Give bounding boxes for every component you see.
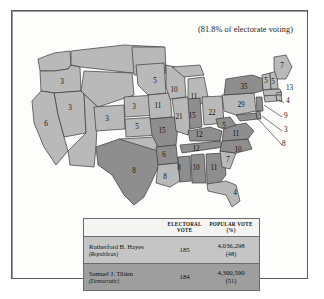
state-votes-VA: 11: [233, 130, 240, 138]
state-votes-WI: 10: [170, 86, 178, 94]
state-votes-IN: 15: [188, 112, 196, 120]
electoral-vote-hayes: 185: [166, 237, 203, 264]
state-votes-RI: 4: [286, 97, 290, 105]
state-votes-CO: 3: [105, 115, 109, 123]
results-table: ELECTORAL VOTE POPULAR VOTE (%) Rutherfo…: [83, 218, 260, 291]
popular-vote-pct: (48): [203, 250, 259, 258]
popular-vote-pct: (51): [203, 277, 259, 285]
state-votes-GA: 11: [211, 164, 218, 172]
callout-vote-labels: 13 4 9 3 8: [282, 84, 294, 148]
state-votes-NJ: 9: [284, 112, 288, 120]
table-row: Rutherford B. Hayes (Republican) 185 4,0…: [84, 237, 259, 264]
state-votes-OH: 22: [208, 109, 216, 117]
state-votes-NV: 3: [68, 104, 72, 112]
header-candidate: [84, 219, 166, 237]
state-votes-NY: 35: [240, 83, 248, 91]
state-votes-WV: 5: [222, 122, 226, 130]
popular-vote-count: 4,036,298: [217, 242, 244, 249]
state-votes-ME: 7: [280, 62, 284, 70]
state-votes-AL: 10: [192, 164, 200, 172]
state-votes-MA: 13: [286, 84, 294, 92]
state-votes-NC: 10: [234, 146, 242, 154]
state-votes-LA: 8: [163, 173, 167, 181]
state-votes-IA: 11: [155, 102, 162, 110]
popular-vote-hayes: 4,036,298 (48): [203, 237, 259, 264]
state-votes-FL: 4: [233, 189, 237, 197]
state-votes-MD: 8: [282, 140, 286, 148]
state-votes-DE: 3: [284, 126, 288, 134]
table-header-row: ELECTORAL VOTE POPULAR VOTE (%): [84, 219, 259, 237]
state-votes-IL: 21: [175, 113, 183, 121]
electoral-map-figure: (81.8% of electorate voting): [0, 0, 324, 299]
state-votes-AR: 6: [162, 151, 166, 159]
header-popular-vote: POPULAR VOTE (%): [203, 219, 259, 237]
leader-line-DE: [262, 116, 282, 131]
state-votes-MI: 11: [191, 93, 198, 101]
state-votes-TN: 12: [192, 145, 200, 153]
us-electoral-map: 3 3 6 3 3 5 8 5 11 15 6 8 10 21 8 11 15: [24, 35, 316, 220]
state-votes-NE: 3: [132, 103, 136, 111]
electoral-vote-tilden: 184: [166, 264, 203, 291]
state-votes-NH: 5: [271, 78, 275, 86]
candidate-cell-hayes: Rutherford B. Hayes (Republican): [84, 237, 166, 264]
candidate-name: Samuel J. Tilden: [89, 270, 133, 277]
state-votes-VT: 5: [264, 77, 268, 85]
state-votes-PA: 29: [237, 101, 245, 109]
figure-frame: (81.8% of electorate voting): [11, 10, 308, 279]
turnout-caption: (81.8% of electorate voting): [198, 25, 293, 34]
leader-line-NJ: [264, 105, 282, 117]
state-votes-TX: 8: [132, 167, 136, 175]
candidate-party: (Republican): [89, 251, 166, 258]
state-votes-MS: 8: [177, 164, 181, 172]
candidate-party: (Democratic): [89, 278, 166, 285]
candidate-name: Rutherford B. Hayes: [89, 243, 144, 250]
header-electoral-vote: ELECTORAL VOTE: [166, 219, 203, 237]
state-votes-MO: 15: [158, 127, 166, 135]
header-popular-line2: (%): [203, 228, 259, 234]
state-votes-MN: 5: [153, 77, 157, 85]
state-votes-OR: 3: [60, 78, 64, 86]
leader-line-MD: [258, 119, 282, 145]
state-votes-SC: 7: [226, 156, 230, 164]
popular-vote-tilden: 4,300,590 (51): [203, 264, 259, 291]
table-row: Samuel J. Tilden (Democratic) 184 4,300,…: [84, 264, 259, 291]
state-votes-CA: 6: [44, 120, 48, 128]
state-votes-KY: 12: [195, 131, 203, 139]
popular-vote-count: 4,300,590: [217, 269, 244, 276]
header-electoral-line2: VOTE: [166, 228, 203, 234]
state-votes-KS: 5: [135, 123, 139, 131]
candidate-cell-tilden: Samuel J. Tilden (Democratic): [84, 264, 166, 291]
